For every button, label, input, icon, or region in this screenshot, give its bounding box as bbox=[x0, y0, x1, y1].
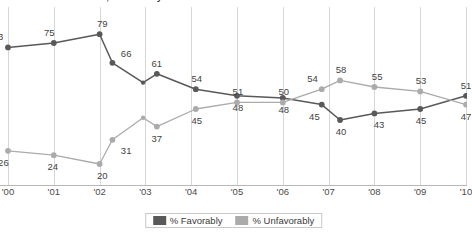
data-point[interactable] bbox=[110, 137, 116, 143]
data-point-label: 50 bbox=[278, 86, 289, 97]
data-point-label: 40 bbox=[336, 126, 347, 137]
x-tick-label: '00 bbox=[2, 186, 14, 197]
x-tick-label: '03 bbox=[139, 186, 151, 197]
data-point[interactable] bbox=[154, 124, 160, 130]
data-point[interactable] bbox=[5, 148, 11, 154]
data-point-label: 43 bbox=[374, 119, 385, 130]
data-point-label: 73 bbox=[0, 31, 3, 42]
data-point[interactable] bbox=[51, 40, 57, 46]
data-point-label: 54 bbox=[307, 73, 318, 84]
legend-swatch-unfavorably bbox=[236, 216, 249, 225]
legend-swatch-favorably bbox=[153, 216, 166, 225]
data-point-label: 26 bbox=[0, 156, 9, 167]
page-title: Generational divide, favorability of ... bbox=[18, 0, 184, 2]
data-point[interactable] bbox=[417, 89, 423, 95]
data-point-label: 37 bbox=[152, 132, 163, 143]
data-point[interactable] bbox=[337, 117, 343, 123]
data-point[interactable] bbox=[319, 86, 325, 92]
data-point-label: 55 bbox=[372, 71, 383, 82]
data-point-label: 54 bbox=[191, 73, 202, 84]
data-point[interactable] bbox=[319, 102, 325, 108]
x-tick-label: '05 bbox=[231, 186, 243, 197]
data-point[interactable] bbox=[97, 161, 103, 167]
data-point-label: 24 bbox=[48, 161, 59, 172]
data-point[interactable] bbox=[193, 106, 199, 112]
data-point[interactable] bbox=[372, 111, 378, 117]
data-point-label: 45 bbox=[191, 115, 202, 126]
data-point[interactable] bbox=[110, 60, 116, 66]
data-point-label: 58 bbox=[336, 64, 347, 75]
data-point[interactable] bbox=[337, 78, 343, 84]
x-axis-labels: '00'01'02'03'04'05'06'07'08'09'10 bbox=[0, 186, 467, 200]
legend-label-favorably: % Favorably bbox=[170, 215, 223, 226]
chart-title-cropped: Generational divide, favorability of ... bbox=[0, 0, 467, 7]
data-point-label: 45 bbox=[416, 115, 427, 126]
data-point-label: 20 bbox=[97, 170, 108, 181]
data-point-label: 75 bbox=[44, 27, 55, 38]
data-point[interactable] bbox=[154, 71, 160, 77]
data-point-label: 45 bbox=[309, 110, 320, 121]
data-point-label: 53 bbox=[416, 75, 427, 86]
data-point[interactable] bbox=[193, 86, 199, 92]
x-tick-label: '08 bbox=[368, 186, 380, 197]
legend: % Favorably % Unfavorably bbox=[145, 213, 323, 228]
data-point-label: 61 bbox=[152, 57, 163, 68]
data-point[interactable] bbox=[463, 102, 467, 108]
x-tick-label: '02 bbox=[93, 186, 105, 197]
data-point[interactable] bbox=[141, 116, 145, 120]
data-point[interactable] bbox=[51, 152, 57, 158]
x-tick-label: '06 bbox=[277, 186, 289, 197]
x-tick-label: '09 bbox=[414, 186, 426, 197]
data-point-label: 48 bbox=[233, 101, 244, 112]
data-point[interactable] bbox=[417, 106, 423, 112]
data-point[interactable] bbox=[5, 45, 11, 51]
x-tick-label: '10 bbox=[460, 186, 472, 197]
legend-item-unfavorably[interactable]: % Unfavorably bbox=[236, 215, 315, 226]
data-point-label: 51 bbox=[233, 86, 244, 97]
data-point[interactable] bbox=[141, 80, 145, 84]
data-point-label: 47 bbox=[461, 110, 472, 121]
data-point[interactable] bbox=[463, 93, 467, 99]
x-tick-label: '01 bbox=[48, 186, 60, 197]
x-tick-label: '04 bbox=[185, 186, 197, 197]
data-point[interactable] bbox=[372, 84, 378, 90]
legend-item-favorably[interactable]: % Favorably bbox=[153, 215, 223, 226]
plot-area: 7375796661544848454043455126242031374551… bbox=[0, 7, 467, 185]
data-point-label: 31 bbox=[121, 144, 132, 155]
data-point-label: 48 bbox=[278, 104, 289, 115]
x-tick-label: '07 bbox=[322, 186, 334, 197]
data-point[interactable] bbox=[97, 31, 103, 37]
data-point-label: 79 bbox=[97, 18, 108, 29]
data-point-label: 51 bbox=[461, 79, 472, 90]
legend-label-unfavorably: % Unfavorably bbox=[253, 215, 315, 226]
data-point-label: 66 bbox=[121, 47, 132, 58]
